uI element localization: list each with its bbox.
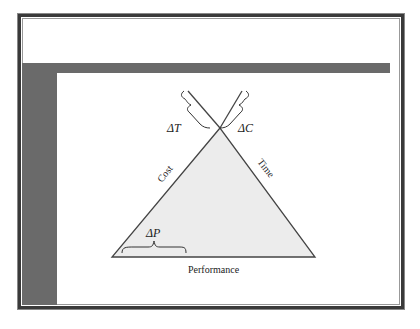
delta-c-label: ΔC	[237, 121, 254, 135]
time-side-extension	[188, 91, 220, 128]
time-side-label: Time	[255, 156, 277, 180]
project-triangle-diagram: ΔT ΔC ΔP Cost Time Performance	[0, 0, 420, 329]
performance-side-label: Performance	[188, 264, 240, 275]
delta-p-label: ΔP	[145, 226, 161, 240]
cost-side-label: Cost	[155, 163, 175, 184]
triangle-shape	[112, 128, 315, 257]
delta-t-label: ΔT	[166, 121, 182, 135]
delta-t-brace	[181, 91, 210, 128]
